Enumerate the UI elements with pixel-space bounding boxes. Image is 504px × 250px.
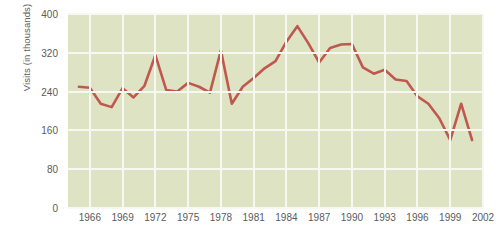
x-axis-tick: 1984 bbox=[275, 212, 297, 223]
gridline-horizontal bbox=[68, 129, 483, 131]
gridline-vertical bbox=[154, 14, 156, 208]
x-axis-tick: 1987 bbox=[308, 212, 330, 223]
x-axis-tick: 1969 bbox=[111, 212, 133, 223]
y-axis-tick: 160 bbox=[41, 125, 58, 136]
gridline-vertical bbox=[449, 14, 451, 208]
y-axis-tick: 240 bbox=[41, 86, 58, 97]
gridline-horizontal bbox=[68, 13, 483, 15]
y-axis-tick-labels: 080160240320400 bbox=[0, 14, 66, 208]
x-axis-tick-labels: 1966196919721975197819811984198719901993… bbox=[0, 212, 504, 232]
gridline-vertical bbox=[285, 14, 287, 208]
visits-polyline bbox=[79, 26, 472, 140]
gridline-vertical bbox=[122, 14, 124, 208]
gridline-vertical bbox=[351, 14, 353, 208]
gridline-vertical bbox=[482, 14, 484, 208]
x-axis-tick: 1996 bbox=[406, 212, 428, 223]
gridline-vertical bbox=[220, 14, 222, 208]
x-axis-tick: 1999 bbox=[439, 212, 461, 223]
series-line-visits bbox=[68, 14, 483, 208]
plot-area bbox=[68, 14, 483, 208]
x-axis-tick: 1978 bbox=[210, 212, 232, 223]
x-axis-tick: 1981 bbox=[243, 212, 265, 223]
gridline-vertical bbox=[384, 14, 386, 208]
x-axis-tick: 1993 bbox=[374, 212, 396, 223]
x-axis-tick: 1990 bbox=[341, 212, 363, 223]
x-axis-tick: 1975 bbox=[177, 212, 199, 223]
x-axis-tick: 1966 bbox=[79, 212, 101, 223]
gridline-vertical bbox=[318, 14, 320, 208]
gridline-horizontal bbox=[68, 91, 483, 93]
y-axis-tick: 80 bbox=[47, 164, 58, 175]
gridline-horizontal bbox=[68, 52, 483, 54]
gridline-horizontal bbox=[68, 168, 483, 170]
gridline-vertical bbox=[89, 14, 91, 208]
gridline-vertical bbox=[416, 14, 418, 208]
gridline-horizontal bbox=[68, 207, 483, 209]
gridline-vertical bbox=[253, 14, 255, 208]
x-axis-tick: 1972 bbox=[144, 212, 166, 223]
gridline-vertical bbox=[187, 14, 189, 208]
y-axis-tick: 320 bbox=[41, 47, 58, 58]
y-axis-tick: 400 bbox=[41, 9, 58, 20]
x-axis-tick: 2002 bbox=[472, 212, 494, 223]
line-chart: Visits (in thousands) 080160240320400 19… bbox=[0, 0, 504, 250]
